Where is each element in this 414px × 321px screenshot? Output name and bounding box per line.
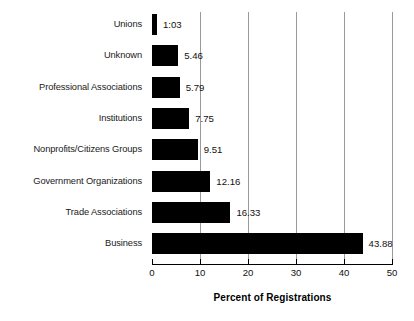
x-axis-tick xyxy=(200,259,201,264)
x-axis-line xyxy=(152,264,393,265)
x-axis-tick-label: 40 xyxy=(329,267,359,279)
gridline xyxy=(392,12,393,264)
bar-row[interactable]: 7.75 xyxy=(152,108,392,129)
bar-value-label: 43.88 xyxy=(369,233,393,254)
category-label: Unknown xyxy=(104,45,142,66)
category-label: Institutions xyxy=(99,108,142,129)
x-axis-tick-label: 30 xyxy=(281,267,311,279)
bar-row[interactable]: 5.46 xyxy=(152,45,392,66)
x-axis-tick xyxy=(392,259,393,264)
x-axis-tick xyxy=(152,259,153,264)
bar-row[interactable]: 1:03 xyxy=(152,14,392,35)
bar-chart: UnionsUnknownProfessional AssociationsIn… xyxy=(0,0,414,321)
bar-row[interactable]: 43.88 xyxy=(152,233,392,254)
bar-value-label: 1:03 xyxy=(163,14,182,35)
category-label: Unions xyxy=(114,14,142,35)
x-axis-tick-label: 50 xyxy=(377,267,407,279)
bar[interactable] xyxy=(152,108,189,129)
bar-value-label: 12.16 xyxy=(216,171,240,192)
x-axis-tick xyxy=(248,259,249,264)
bar[interactable] xyxy=(152,139,198,160)
bar[interactable] xyxy=(152,77,180,98)
category-label: Nonprofits/Citizens Groups xyxy=(34,139,143,160)
bar-value-label: 9.51 xyxy=(204,139,223,160)
bar-row[interactable]: 16.33 xyxy=(152,202,392,223)
x-axis-tick-label: 20 xyxy=(233,267,263,279)
x-axis-tick xyxy=(344,259,345,264)
category-label: Professional Associations xyxy=(39,77,142,98)
bar-row[interactable]: 5.79 xyxy=(152,77,392,98)
x-axis-title: Percent of Registrations xyxy=(152,292,393,303)
bar-value-label: 16.33 xyxy=(236,202,260,223)
bar-value-label: 5.46 xyxy=(184,45,203,66)
category-label: Trade Associations xyxy=(66,202,142,223)
bar[interactable] xyxy=(152,233,363,254)
category-label: Business xyxy=(105,233,142,254)
plot-area: 1:035.465.797.759.5112.1616.3343.88 xyxy=(152,12,392,264)
category-axis-labels: UnionsUnknownProfessional AssociationsIn… xyxy=(0,12,146,264)
bar-value-label: 5.79 xyxy=(186,77,205,98)
bar-row[interactable]: 12.16 xyxy=(152,171,392,192)
bar[interactable] xyxy=(152,202,230,223)
bar[interactable] xyxy=(152,14,157,35)
category-label: Government Organizations xyxy=(33,171,142,192)
x-axis-tick-label: 0 xyxy=(137,267,167,279)
bar[interactable] xyxy=(152,171,210,192)
x-axis-tick-label: 10 xyxy=(185,267,215,279)
bar[interactable] xyxy=(152,45,178,66)
bar-row[interactable]: 9.51 xyxy=(152,139,392,160)
x-axis-tick xyxy=(296,259,297,264)
bar-value-label: 7.75 xyxy=(195,108,214,129)
